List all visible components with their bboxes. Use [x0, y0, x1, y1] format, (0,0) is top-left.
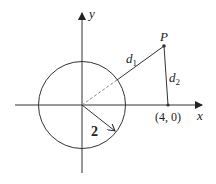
x-axis-label: x	[196, 108, 203, 123]
radius-label: 2	[91, 124, 98, 139]
point-4-0-dot	[166, 103, 169, 106]
d2-label: d2	[169, 70, 180, 87]
radius-arrow	[82, 105, 115, 131]
point-P-dot	[162, 44, 166, 48]
segment-d1	[117, 46, 164, 80]
d1-label: d1	[126, 51, 137, 68]
dashed-radius-to-P	[82, 80, 117, 105]
segment-d2	[164, 46, 168, 105]
y-axis-label: y	[87, 6, 95, 21]
point-4-0-label: (4, 0)	[155, 110, 181, 124]
diagram-canvas: y x P d1 d2 (4, 0) 2	[0, 0, 216, 184]
point-P-label: P	[159, 29, 168, 44]
